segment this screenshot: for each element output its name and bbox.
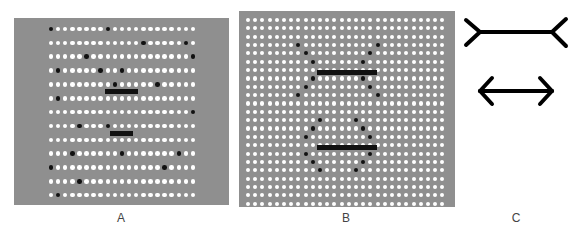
white-dot <box>440 85 444 89</box>
white-dot <box>404 85 408 89</box>
white-dot <box>177 110 182 115</box>
white-dot <box>134 68 139 73</box>
white-dot <box>282 135 286 139</box>
white-dot <box>148 27 153 32</box>
white-dot <box>275 177 279 181</box>
white-dot <box>289 18 293 22</box>
white-dot <box>412 85 416 89</box>
white-dot <box>56 165 61 170</box>
white-dot <box>296 135 300 139</box>
white-dot <box>113 27 118 32</box>
white-dot <box>419 152 423 156</box>
white-dot <box>332 43 336 47</box>
white-dot <box>368 101 372 105</box>
black-dot <box>361 126 365 130</box>
white-dot <box>404 51 408 55</box>
white-dot <box>340 51 344 55</box>
white-dot <box>340 26 344 30</box>
white-dot <box>127 179 132 184</box>
white-dot <box>390 18 394 22</box>
white-dot <box>332 18 336 22</box>
white-dot <box>98 41 103 46</box>
white-dot <box>70 27 75 32</box>
black-dot <box>56 193 61 198</box>
white-dot <box>354 160 358 164</box>
white-dot <box>311 26 315 30</box>
white-dot <box>98 82 103 87</box>
white-dot <box>49 179 54 184</box>
white-dot <box>304 26 308 30</box>
white-dot <box>275 68 279 72</box>
white-dot <box>347 93 351 97</box>
white-dot <box>169 68 174 73</box>
white-dot <box>148 138 153 143</box>
white-dot <box>332 202 336 206</box>
white-dot <box>361 93 365 97</box>
white-dot <box>354 110 358 114</box>
white-dot <box>390 160 394 164</box>
white-dot <box>361 51 365 55</box>
white-dot <box>397 168 401 172</box>
white-dot <box>426 18 430 22</box>
panel-b <box>239 11 455 207</box>
white-dot <box>361 185 365 189</box>
white-dot <box>354 152 358 156</box>
white-dot <box>91 54 96 59</box>
white-dot <box>106 82 111 87</box>
white-dot <box>311 51 315 55</box>
white-dot <box>340 118 344 122</box>
white-dot <box>361 18 365 22</box>
white-dot <box>304 177 308 181</box>
white-dot <box>433 60 437 64</box>
white-dot <box>113 54 118 59</box>
black-dot <box>361 160 365 164</box>
black-dot <box>304 85 308 89</box>
white-dot <box>63 193 68 198</box>
white-dot <box>347 18 351 22</box>
white-dot <box>296 51 300 55</box>
white-dot <box>419 110 423 114</box>
white-dot <box>332 76 336 80</box>
black-dot <box>376 43 380 47</box>
white-dot <box>347 76 351 80</box>
white-dot <box>404 177 408 181</box>
white-dot <box>404 43 408 47</box>
white-dot <box>325 35 329 39</box>
white-dot <box>433 18 437 22</box>
white-dot <box>383 118 387 122</box>
white-dot <box>383 68 387 72</box>
white-dot <box>162 138 167 143</box>
black-dot <box>177 151 182 156</box>
white-dot <box>404 152 408 156</box>
white-dot <box>134 193 139 198</box>
white-dot <box>347 202 351 206</box>
white-dot <box>383 177 387 181</box>
white-dot <box>169 151 174 156</box>
white-dot <box>63 165 68 170</box>
white-dot <box>296 193 300 197</box>
white-dot <box>98 138 103 143</box>
white-dot <box>246 35 250 39</box>
white-dot <box>120 124 125 129</box>
white-dot <box>275 18 279 22</box>
white-dot <box>268 118 272 122</box>
white-dot <box>106 41 111 46</box>
white-dot <box>397 110 401 114</box>
white-dot <box>98 110 103 115</box>
white-dot <box>106 96 111 101</box>
white-dot <box>376 18 380 22</box>
white-dot <box>311 43 315 47</box>
white-dot <box>433 110 437 114</box>
white-dot <box>134 110 139 115</box>
white-dot <box>347 135 351 139</box>
white-dot <box>246 18 250 22</box>
white-dot <box>325 185 329 189</box>
white-dot <box>63 151 68 156</box>
white-dot <box>113 96 118 101</box>
white-dot <box>404 126 408 130</box>
white-dot <box>383 43 387 47</box>
white-dot <box>296 68 300 72</box>
white-dot <box>426 152 430 156</box>
white-dot <box>127 165 132 170</box>
white-dot <box>253 101 257 105</box>
